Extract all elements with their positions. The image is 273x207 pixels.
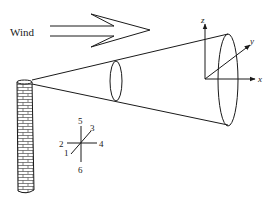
y-axis-label: y <box>249 36 254 46</box>
key-label-4: 4 <box>99 139 104 149</box>
coordinate-axes: z x y <box>200 15 262 84</box>
key-label-2: 2 <box>59 139 64 149</box>
y-axis <box>205 45 250 79</box>
plume-cross-section-small <box>110 61 122 101</box>
key-label-5: 5 <box>78 116 83 126</box>
wind-label: Wind <box>10 26 34 38</box>
z-axis-label: z <box>200 15 205 25</box>
direction-key: 1 2 3 4 5 6 <box>59 116 104 175</box>
key-label-3: 3 <box>90 123 95 133</box>
plume-lower-edge <box>32 84 228 125</box>
x-axis-label: x <box>257 74 262 84</box>
wind-arrow-icon <box>50 14 150 47</box>
key-label-1: 1 <box>64 148 69 158</box>
plume-diagram: Wind z x y 1 2 3 4 5 6 <box>0 0 273 207</box>
stack <box>17 80 34 193</box>
plume-upper-edge <box>32 34 228 80</box>
key-label-6: 6 <box>78 165 83 175</box>
plume-cross-section-large <box>218 34 238 126</box>
